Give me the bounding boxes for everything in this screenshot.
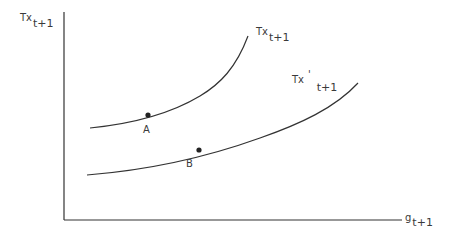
curve-lower <box>87 83 358 175</box>
curve-upper-label: Txt+1 <box>255 26 290 44</box>
curve-upper <box>90 36 248 128</box>
diagram-canvas: Txt+1 gt+1 Txt+1 Tx't+1 A B <box>0 0 452 236</box>
curve-lower-label: Tx't+1 <box>291 69 337 94</box>
point-b-marker <box>196 147 201 152</box>
point-b-label: B <box>186 158 193 169</box>
x-axis-label: gt+1 <box>405 212 433 229</box>
point-a-marker <box>145 112 150 117</box>
y-axis-label: Txt+1 <box>19 12 54 30</box>
point-a-label: A <box>143 124 150 135</box>
